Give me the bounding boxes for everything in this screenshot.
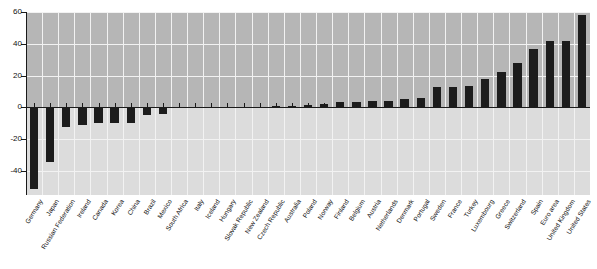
- bar-chart: 6040200-20-40 GermanyJapanRussian Federa…: [0, 0, 597, 269]
- x-axis-tick: [99, 103, 100, 107]
- x-axis-label: Sweden: [428, 198, 447, 222]
- x-axis-label: Canada: [90, 198, 108, 221]
- x-axis-tick: [260, 103, 261, 107]
- x-axis-tick: [308, 103, 309, 107]
- x-axis-tick: [244, 103, 245, 107]
- x-axis-label: France: [446, 198, 463, 219]
- x-axis-tick: [517, 103, 518, 107]
- x-axis-tick: [50, 103, 51, 107]
- x-axis-tick: [227, 103, 228, 107]
- x-axis-tick: [163, 103, 164, 107]
- x-axis-tick: [421, 103, 422, 107]
- x-axis-tick: [437, 103, 438, 107]
- x-axis-tick: [34, 103, 35, 107]
- x-axis-tick: [550, 103, 551, 107]
- x-axis-tick: [356, 103, 357, 107]
- x-axis-tick: [195, 103, 196, 107]
- x-axis-tick: [534, 103, 535, 107]
- x-axis-tick: [469, 103, 470, 107]
- x-axis-tick: [179, 103, 180, 107]
- x-axis-tick: [453, 103, 454, 107]
- x-axis-label: Russian Federation: [40, 198, 76, 250]
- x-axis-tick: [147, 103, 148, 107]
- x-axis-label: Ireland: [76, 198, 93, 219]
- x-axis-tick: [211, 103, 212, 107]
- x-axis-tick: [340, 103, 341, 107]
- x-axis-tick: [276, 103, 277, 107]
- x-axis-tick: [389, 103, 390, 107]
- x-axis-tick: [405, 103, 406, 107]
- x-axis-tick: [115, 103, 116, 107]
- x-axis-tick: [324, 103, 325, 107]
- x-axis-label: Korea: [109, 198, 124, 217]
- x-axis-label: Norway: [316, 198, 334, 221]
- x-axis-label: Austria: [366, 198, 383, 219]
- x-axis-label: Brazil: [142, 198, 157, 216]
- x-axis-tick: [66, 103, 67, 107]
- x-axis-tick: [566, 103, 567, 107]
- x-axis-label: China: [126, 198, 141, 216]
- x-axis-tick: [82, 103, 83, 107]
- x-axis: GermanyJapanRussian FederationIrelandCan…: [0, 0, 597, 269]
- x-axis-label: Spain: [529, 198, 544, 216]
- x-axis-tick: [582, 103, 583, 107]
- x-axis-label: Japan: [45, 198, 60, 217]
- x-axis-label: Italy: [193, 198, 205, 212]
- x-axis-tick: [372, 103, 373, 107]
- x-axis-label: Germany: [24, 198, 44, 225]
- x-axis-tick: [501, 103, 502, 107]
- x-axis-tick: [485, 103, 486, 107]
- x-axis-label: Belgium: [348, 198, 367, 222]
- x-axis-tick: [131, 103, 132, 107]
- x-axis-tick: [292, 103, 293, 107]
